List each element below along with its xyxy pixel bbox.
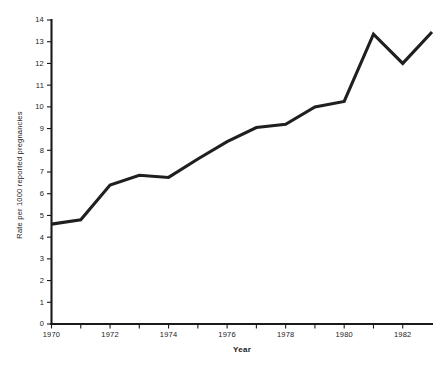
y-axis-title: Rate per 1000 reported pregnancies (15, 111, 24, 238)
y-tick-label: 9 (40, 124, 44, 133)
x-tick-label: 1980 (335, 330, 353, 339)
y-tick-label: 1 (40, 298, 44, 307)
y-tick-label: 8 (40, 146, 44, 155)
y-axis: 01234567891011121314 (35, 15, 51, 328)
y-tick-label: 2 (40, 276, 44, 285)
y-tick-label: 13 (35, 37, 44, 46)
x-axis: 1970197219741976197819801982 (43, 324, 432, 339)
y-tick-label: 11 (36, 81, 44, 90)
x-tick-label: 1970 (43, 330, 61, 339)
y-tick-label: 7 (40, 167, 44, 176)
chart-plot-area: 01234567891011121314 1970197219741976197… (0, 0, 439, 368)
y-tick-label: 10 (35, 102, 44, 111)
data-line-ectopic-pregnancy-rate (52, 32, 433, 224)
y-tick-label: 5 (40, 211, 44, 220)
x-tick-label: 1982 (394, 330, 412, 339)
x-tick-label: 1972 (101, 330, 119, 339)
y-tick-label: 4 (40, 233, 44, 242)
x-tick-label: 1976 (218, 330, 236, 339)
x-tick-label: 1974 (160, 330, 178, 339)
y-tick-label: 14 (35, 15, 44, 24)
x-axis-tick-labels: 1970197219741976197819801982 (43, 330, 412, 339)
y-tick-label: 6 (40, 189, 44, 198)
x-tick-label: 1978 (277, 330, 295, 339)
y-tick-label: 0 (40, 319, 44, 328)
x-axis-title: Year (233, 345, 251, 354)
line-chart-figure: 01234567891011121314 1970197219741976197… (0, 0, 439, 368)
data-series-group (52, 32, 433, 224)
y-axis-tick-labels: 01234567891011121314 (35, 15, 44, 328)
y-tick-label: 3 (40, 254, 44, 263)
y-tick-label: 12 (35, 59, 44, 68)
